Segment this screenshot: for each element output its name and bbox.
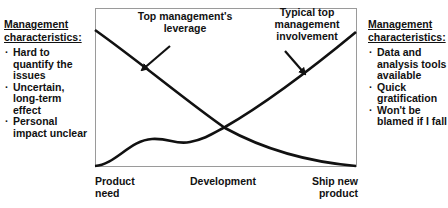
leverage-pointer-arrow <box>142 46 170 70</box>
x-axis-end-label: Ship new product <box>300 175 358 199</box>
x-axis-middle-label: Development <box>190 175 256 187</box>
leverage-curve-label: Top management's leverage <box>130 10 240 34</box>
x-axis-end-text: Ship new product <box>300 175 358 199</box>
involvement-curve-label: Typical top management involvement <box>262 6 352 42</box>
x-axis-start-text: Product need <box>95 175 143 199</box>
involvement-pointer-arrow <box>285 51 305 74</box>
x-axis-start-label: Product need <box>95 175 143 199</box>
involvement-curve <box>95 32 356 166</box>
